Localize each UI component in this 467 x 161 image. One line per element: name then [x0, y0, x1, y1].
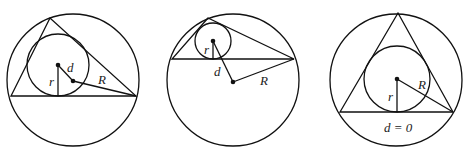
- center-dot: [395, 77, 400, 82]
- label-d-equals-zero: d = 0: [384, 120, 413, 135]
- circumcenter-dot: [231, 80, 236, 85]
- euler-triangle-figure: d r R r d R r R d = 0: [0, 0, 467, 161]
- label-r: r: [204, 42, 210, 57]
- triangle: [172, 18, 294, 59]
- incenter-dot: [211, 39, 216, 44]
- label-r: r: [388, 89, 394, 104]
- incenter-dot: [56, 63, 61, 68]
- label-d: d: [67, 60, 74, 75]
- panel-2: r d R: [167, 14, 299, 146]
- panel-1: d r R: [7, 14, 139, 146]
- label-R: R: [417, 77, 426, 92]
- label-d: d: [214, 64, 221, 79]
- panel-3: r R d = 0: [330, 13, 462, 146]
- label-R: R: [259, 73, 268, 88]
- label-r: r: [49, 74, 55, 89]
- label-R: R: [97, 72, 106, 87]
- circumcenter-dot: [71, 79, 76, 84]
